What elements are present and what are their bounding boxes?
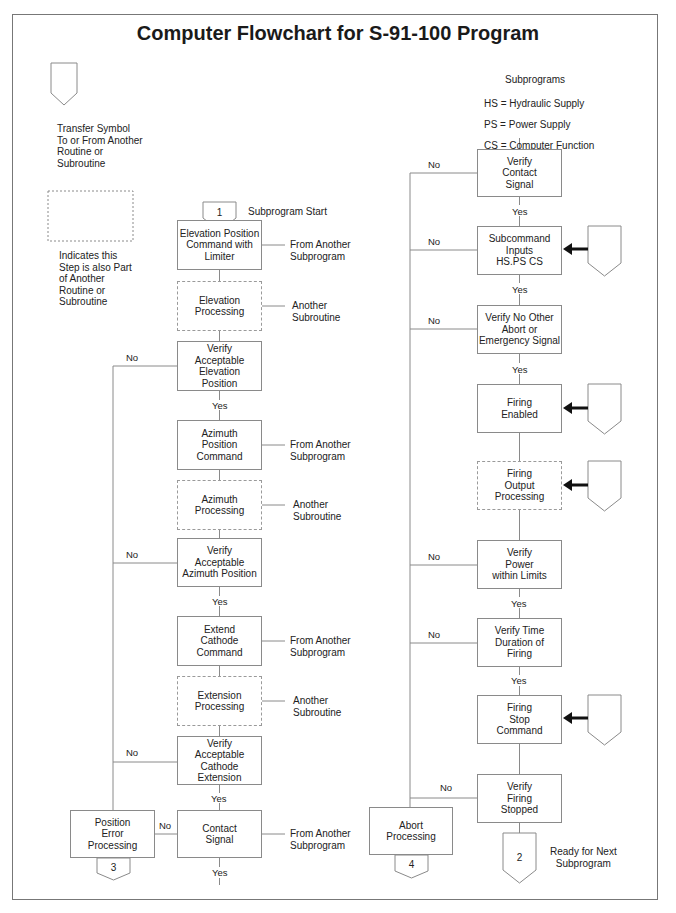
- step-subcommand-inputs: Subcommand Inputs HS.PS CS: [477, 226, 562, 275]
- no-label: No: [126, 549, 138, 560]
- decision-firing-stopped: Verify Firing Stopped: [477, 774, 562, 823]
- legend-dashed-text: Indicates this Step is also Part of Anot…: [59, 250, 132, 308]
- transfer-symbol-icon: [51, 63, 77, 105]
- side-note: From Another Subprogram: [290, 439, 351, 462]
- yes-label: Yes: [211, 793, 227, 804]
- side-note: Another Subroutine: [293, 695, 341, 718]
- side-note: Another Subroutine: [293, 499, 341, 522]
- side-note: From Another Subprogram: [290, 828, 351, 851]
- yes-label: Yes: [512, 206, 528, 217]
- decision-time-duration: Verify Time Duration of Firing: [477, 618, 562, 667]
- step-azimuth-command: Azimuth Position Command: [177, 420, 262, 470]
- start-label: Subprogram Start: [248, 206, 327, 218]
- transfer-in-icon: [588, 384, 621, 434]
- decision-elevation-position: Verify Acceptable Elevation Position: [177, 341, 262, 391]
- no-label: No: [428, 159, 440, 170]
- subprograms-heading: Subprograms: [505, 74, 565, 86]
- step-extend-cathode: Extend Cathode Command: [177, 616, 262, 666]
- yes-label: Yes: [212, 400, 228, 411]
- subprogram-ps: PS = Power Supply: [484, 120, 594, 131]
- step-elevation-processing: Elevation Processing: [177, 281, 262, 331]
- decision-verify-contact: Verify Contact Signal: [477, 149, 562, 197]
- step-firing-output-processing: Firing Output Processing: [477, 461, 562, 510]
- dashed-box-legend: [48, 191, 133, 241]
- no-label: No: [440, 782, 452, 793]
- step-extension-processing: Extension Processing: [177, 676, 262, 726]
- yes-label: Yes: [511, 598, 527, 609]
- decision-azimuth-position: Verify Acceptable Azimuth Position: [177, 538, 262, 587]
- no-label: No: [428, 315, 440, 326]
- decision-power-limits: Verify Power within Limits: [477, 540, 562, 589]
- yes-label: Yes: [212, 867, 228, 878]
- no-label: No: [428, 629, 440, 640]
- transfer-in-icon: [588, 695, 621, 745]
- yes-label: Yes: [512, 364, 528, 375]
- transfer-in-icon: [588, 226, 621, 276]
- decision-no-abort: Verify No Other Abort or Emergency Signa…: [477, 305, 562, 354]
- abort-processing: Abort Processing: [369, 807, 453, 855]
- start-connector-number: 1: [203, 207, 236, 218]
- end-connector-number: 2: [503, 852, 536, 863]
- step-firing-stop-command: Firing Stop Command: [477, 695, 562, 744]
- step-elevation-command: Elevation Position Command with Limiter: [177, 220, 262, 270]
- decision-cathode-extension: Verify Acceptable Cathode Extension: [177, 736, 262, 785]
- no-label: No: [126, 747, 138, 758]
- end-label: Ready for Next Subprogram: [550, 846, 617, 869]
- subprogram-hs: HS = Hydraulic Supply: [484, 99, 594, 110]
- no-label: No: [428, 551, 440, 562]
- side-note: From Another Subprogram: [290, 239, 351, 262]
- no-label: No: [126, 352, 138, 363]
- yes-label: Yes: [512, 284, 528, 295]
- connector-4-number: 4: [395, 859, 428, 870]
- position-error-processing: Position Error Processing: [70, 810, 155, 858]
- no-label: No: [428, 236, 440, 247]
- step-contact-signal: Contact Signal: [177, 810, 262, 858]
- yes-label: Yes: [511, 675, 527, 686]
- no-label: No: [159, 820, 171, 831]
- side-note: From Another Subprogram: [290, 635, 351, 658]
- transfer-in-icon: [588, 461, 621, 511]
- step-firing-enabled: Firing Enabled: [477, 384, 562, 433]
- yes-label: Yes: [212, 596, 228, 607]
- connector-3-number: 3: [97, 862, 130, 873]
- side-note: Another Subroutine: [292, 300, 340, 323]
- legend-transfer-text: Transfer Symbol To or From Another Routi…: [57, 123, 143, 169]
- step-azimuth-processing: Azimuth Processing: [177, 480, 262, 530]
